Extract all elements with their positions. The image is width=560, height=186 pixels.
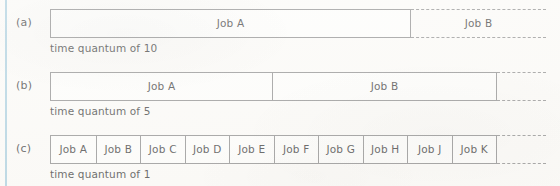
segment-job-b-row-b: Job B bbox=[272, 73, 496, 100]
segment-job-c-row-c: Job C bbox=[140, 136, 185, 163]
row-label-a: (a) bbox=[16, 16, 46, 29]
segment-job-a-row-b: Job A bbox=[51, 73, 272, 100]
segment-job-h-row-c: Job H bbox=[363, 136, 408, 163]
timeline-bar-c: Job A Job B Job C Job D Job E Job F Job … bbox=[50, 135, 497, 164]
segment-job-a-row-c: Job A bbox=[51, 136, 96, 163]
caption-row-b: time quantum of 5 bbox=[50, 104, 151, 118]
caption-row-c: time quantum of 1 bbox=[50, 167, 151, 181]
segment-job-b-row-c: Job B bbox=[96, 136, 141, 163]
segment-label: Job D bbox=[193, 143, 222, 156]
row-label-c: (c) bbox=[16, 142, 46, 155]
segment-label: Job A bbox=[148, 80, 176, 93]
segment-job-f-row-c: Job F bbox=[274, 136, 319, 163]
timeline-tail-a: Job B bbox=[411, 9, 546, 38]
segment-job-k-row-c: Job K bbox=[452, 136, 497, 163]
segment-job-d-row-c: Job D bbox=[185, 136, 230, 163]
segment-label: Job E bbox=[238, 143, 265, 156]
segment-label: Job K bbox=[461, 143, 488, 156]
segment-label: Job C bbox=[149, 143, 177, 156]
segment-job-e-row-c: Job E bbox=[229, 136, 274, 163]
tail-label: Job B bbox=[465, 17, 493, 30]
segment-job-a-row-a: Job A bbox=[51, 10, 410, 37]
segment-label: Job B bbox=[371, 80, 399, 93]
segment-job-g-row-c: Job G bbox=[318, 136, 363, 163]
segment-label: Job B bbox=[104, 143, 132, 156]
segment-label: Job A bbox=[217, 17, 245, 30]
segment-label: Job J bbox=[418, 143, 442, 156]
timeline-bar-a: Job A bbox=[50, 9, 411, 38]
timeline-tail-c bbox=[497, 135, 546, 164]
round-robin-timeline-figure: (a) Job A Job B time quantum of 10 (b) J… bbox=[0, 0, 560, 186]
row-label-b: (b) bbox=[16, 79, 46, 92]
segment-job-j-row-c: Job J bbox=[407, 136, 452, 163]
segment-label: Job H bbox=[371, 143, 399, 156]
timeline-bar-b: Job A Job B bbox=[50, 72, 497, 101]
caption-row-a: time quantum of 10 bbox=[50, 41, 157, 55]
segment-label: Job G bbox=[326, 143, 355, 156]
segment-label: Job A bbox=[59, 143, 87, 156]
left-margin-rule bbox=[5, 0, 7, 186]
segment-label: Job F bbox=[283, 143, 310, 156]
timeline-tail-b bbox=[497, 72, 546, 101]
